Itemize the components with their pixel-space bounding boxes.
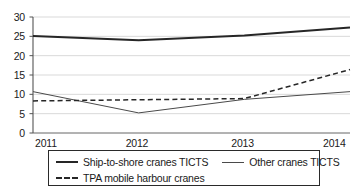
legend-item-label: Ship-to-shore cranes TICTS xyxy=(83,157,208,168)
x-axis-tick-label: 2013 xyxy=(231,138,254,149)
y-axis-tick-label: 5 xyxy=(3,109,25,120)
y-axis-tick-label: 25 xyxy=(3,31,25,42)
legend-row-1: Ship-to-shore cranes TICTS Other cranes … xyxy=(56,154,339,170)
dashed-line-icon xyxy=(56,177,78,179)
legend-item-ship-to-shore-cranes-ticts[interactable]: Ship-to-shore cranes TICTS xyxy=(56,157,208,168)
series-line xyxy=(33,70,350,101)
axis-lines xyxy=(30,17,34,133)
x-axis-tick-label: 2012 xyxy=(126,138,149,149)
legend-item-label: Other cranes TICTS xyxy=(249,157,339,168)
solid-thick-line-icon xyxy=(56,161,78,163)
y-axis-tick-label: 15 xyxy=(3,70,25,81)
gridlines xyxy=(33,17,350,133)
legend-row-2: TPA mobile harbour cranes xyxy=(56,170,204,186)
legend-item-label: TPA mobile harbour cranes xyxy=(83,173,204,184)
line-chart: 302520151050 2011201220132014 Ship-to-sh… xyxy=(0,0,355,192)
y-axis-tick-label: 20 xyxy=(3,51,25,62)
x-axis-tick-label: 2011 xyxy=(35,138,57,149)
y-axis-tick-label: 0 xyxy=(3,128,25,139)
series-line xyxy=(33,27,350,40)
legend-item-tpa-mobile-harbour-cranes[interactable]: TPA mobile harbour cranes xyxy=(56,173,204,184)
x-axis-tick-label: 2014 xyxy=(323,138,346,149)
y-axis-tick-label: 30 xyxy=(3,12,25,23)
chart-legend: Ship-to-shore cranes TICTS Other cranes … xyxy=(48,150,320,186)
series-lines xyxy=(33,27,350,112)
legend-item-other-cranes-ticts[interactable]: Other cranes TICTS xyxy=(222,157,339,168)
series-line xyxy=(33,92,350,113)
y-axis-tick-label: 10 xyxy=(3,89,25,100)
solid-thin-line-icon xyxy=(222,162,244,163)
